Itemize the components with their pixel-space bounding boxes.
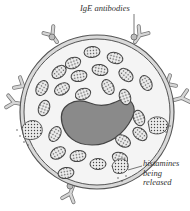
histamines-label: histamines being released bbox=[143, 159, 179, 188]
histamines-label-line3: released bbox=[143, 178, 179, 188]
ige-antibodies-label: IgE antibodies bbox=[80, 4, 130, 14]
